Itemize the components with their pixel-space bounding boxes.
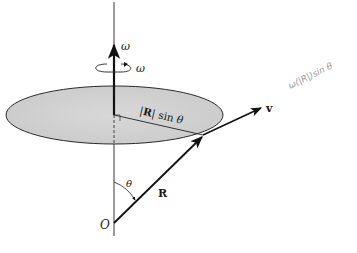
rotating-disk-diagram: ω ω |R| sin θ v R θ O ω(|R|)sin θ	[0, 0, 357, 253]
position-vector-label: R	[158, 187, 168, 200]
origin-label: O	[100, 218, 110, 232]
velocity-label: v	[265, 102, 273, 115]
omega-rotation-label: ω	[136, 62, 145, 75]
handwritten-note: ω(|R|)sin θ	[286, 60, 334, 90]
omega-axis-label: ω	[121, 40, 130, 53]
angle-theta-label: θ	[126, 178, 132, 189]
